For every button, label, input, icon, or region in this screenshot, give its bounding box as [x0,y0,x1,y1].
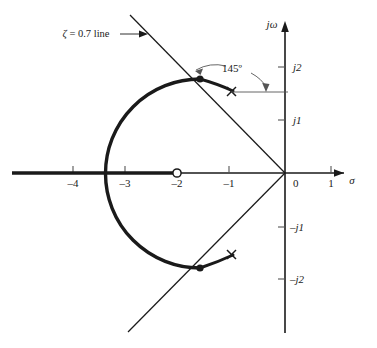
open-loop-zero-marker [173,169,181,177]
root-locus-figure: –4 –3 –2 –1 0 1 j2 j1 –j1 –j2 σ jω [0,0,377,348]
root-locus-plot: –4 –3 –2 –1 0 1 j2 j1 –j1 –j2 σ jω [0,0,377,348]
angle-annotation-label: 145º [222,62,243,74]
damping-ratio-line-lower [128,173,285,332]
damping-ratio-line-upper [130,15,285,173]
damping-intersection-upper [196,75,203,82]
open-loop-pole-lower [227,250,236,259]
real-axis-label: σ [349,174,355,186]
tick-label-minus2: –2 [171,177,183,189]
damping-intersection-lower [196,264,203,271]
damping-line-annotation-label: ζ = 0.7 line [63,28,110,40]
imag-axis-arrowhead [281,21,289,32]
tick-label-minus-j2: –j2 [289,273,305,285]
angle-reference-arrowhead [262,83,269,92]
imag-axis-label: jω [265,18,278,30]
tick-label-minus3: –3 [119,177,132,189]
tick-label-zero: 0 [293,177,299,189]
tick-label-plus1: 1 [328,177,334,189]
open-loop-pole-upper [227,87,236,96]
real-axis-arrowhead [334,169,344,177]
tick-label-minus-j1: –j1 [289,221,304,233]
tick-label-j1: j1 [291,114,302,126]
tick-label-j2: j2 [291,61,302,73]
tick-label-minus4: –4 [67,177,80,189]
locus-branch-upper-pole [200,79,233,91]
tick-label-minus1: –1 [223,177,235,189]
